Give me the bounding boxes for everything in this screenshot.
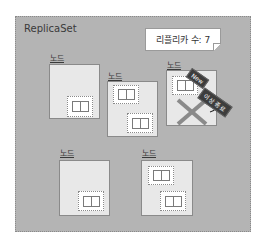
replicaset-title: ReplicaSet [24, 23, 77, 34]
container-icon [83, 196, 100, 207]
pod [127, 113, 153, 133]
node-label: 노드 [167, 59, 181, 70]
replica-count-callout: 리플리카 수: 7 [145, 28, 221, 51]
pod [67, 96, 93, 117]
node-label: 노드 [60, 147, 74, 158]
container-icon [72, 101, 89, 112]
pod [148, 166, 174, 185]
pod [113, 85, 139, 104]
node-label: 노드 [50, 52, 64, 63]
container-icon [118, 89, 135, 100]
container-icon [132, 118, 149, 129]
pod [160, 191, 186, 211]
node-label: 노드 [108, 70, 122, 81]
replica-count-label: 리플리카 수: 7 [156, 33, 210, 46]
container-icon [165, 196, 182, 207]
node-label: 노드 [142, 147, 156, 158]
folded-corner-icon [213, 43, 221, 51]
pod [78, 191, 104, 211]
container-icon [153, 170, 170, 181]
